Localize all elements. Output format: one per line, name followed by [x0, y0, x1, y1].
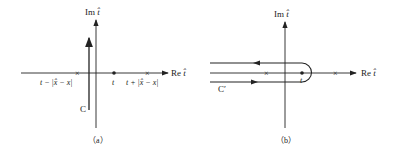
im-axis-label: Im t̂	[85, 7, 101, 17]
pole-left-icon: ×	[75, 69, 80, 78]
contour-c-prime	[210, 63, 312, 82]
caption-a: （a）	[88, 136, 108, 145]
re-axis-label: Re t̂	[171, 68, 187, 78]
caption-b: （b）	[276, 136, 296, 145]
panel-b: Im t̂ Re t̂ C′ × × t （b）	[210, 9, 377, 145]
contour-diagram: Im t̂ Re t̂ C × × t − |x̂ − x| t t + |x̂…	[0, 0, 400, 156]
contour-c-label: C	[80, 104, 86, 114]
point-t-label: t	[112, 78, 115, 87]
arrow-top-left-icon	[253, 61, 260, 66]
point-t-icon	[300, 71, 304, 75]
pole-right-icon: ×	[145, 69, 150, 78]
point-t-label: t	[300, 76, 303, 85]
panel-a: Im t̂ Re t̂ C × × t − |x̂ − x| t t + |x̂…	[21, 7, 187, 145]
contour-c-prime-label: C′	[218, 84, 226, 94]
pole-left-label: t − |x̂ − x|	[40, 78, 73, 87]
pole-left-icon: ×	[264, 69, 269, 78]
re-axis-label: Re t̂	[361, 68, 377, 78]
pole-right-label: t + |x̂ − x|	[126, 78, 159, 87]
point-t-icon	[112, 71, 116, 75]
arrow-bottom-right-icon	[251, 80, 258, 85]
pole-right-icon: ×	[333, 69, 338, 78]
im-axis-label: Im t̂	[274, 9, 290, 19]
